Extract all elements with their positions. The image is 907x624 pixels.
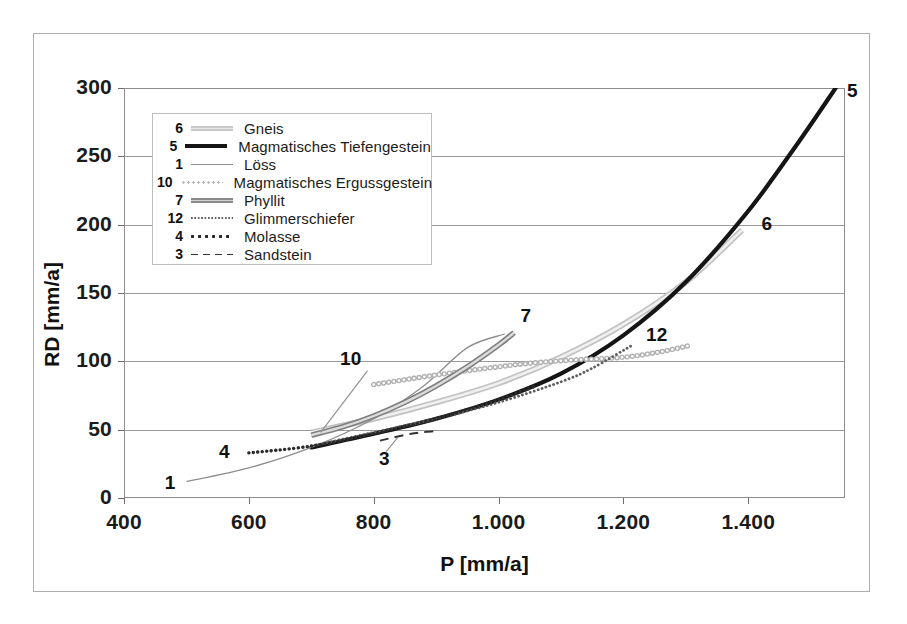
legend-line-sample-icon	[191, 248, 233, 260]
legend-label: Gneis	[244, 120, 284, 137]
y-tick-label: 50	[88, 417, 112, 441]
legend-line-sample-icon	[191, 230, 233, 242]
curve-molasse	[249, 386, 536, 453]
legend-line-sample-icon	[191, 212, 233, 224]
curve-label-gneis: 6	[762, 213, 773, 235]
legend-number: 3	[157, 246, 183, 262]
x-tick-mark	[623, 498, 624, 504]
curve-label-magmatisches_ergussgestein: 10	[340, 348, 361, 370]
curve-label-loess: 1	[165, 472, 176, 494]
legend-line-sample-icon	[185, 140, 227, 152]
legend-sample-segment	[191, 217, 233, 219]
x-tick-label: 1.400	[698, 510, 798, 534]
chart-figure: RD [mm/a] P [mm/a] 6511071243 0501001502…	[0, 0, 907, 624]
curve-label-molasse: 4	[219, 441, 230, 463]
legend-row-magmatisches-tiefengestein: 5Magmatisches Tiefengestein	[153, 137, 431, 155]
y-tick-label: 100	[76, 348, 112, 372]
y-axis-title-wrap: RD [mm/a]	[36, 215, 66, 375]
x-tick-label: 600	[199, 510, 299, 534]
legend-sample-segment	[191, 129, 233, 131]
y-tick-label: 0	[100, 485, 112, 509]
y-tick-label: 250	[76, 143, 112, 167]
legend-label: Sandstein	[244, 246, 312, 263]
legend-line-sample-icon	[191, 122, 233, 134]
legend-row-molasse: 4Molasse	[153, 227, 431, 245]
legend-label: Glimmerschiefer	[244, 210, 355, 227]
x-tick-mark	[124, 498, 125, 504]
legend-row-sandstein: 3Sandstein	[153, 245, 431, 263]
curve-magmatisches_ergussgestein-ring	[374, 345, 692, 385]
chart-legend: 6Gneis5Magmatisches Tiefengestein1Löss10…	[152, 113, 432, 265]
legend-row-magmatisches-ergussgestein: 10Magmatisches Ergussgestein	[153, 173, 431, 191]
x-tick-mark	[249, 498, 250, 504]
legend-label: Magmatisches Ergussgestein	[234, 174, 433, 191]
x-tick-mark	[374, 498, 375, 504]
legend-number: 6	[157, 120, 183, 136]
x-tick-label: 800	[324, 510, 424, 534]
legend-sample-segment	[191, 201, 233, 203]
x-tick-label: 1.000	[449, 510, 549, 534]
legend-label: Löss	[244, 156, 276, 173]
x-tick-label: 400	[74, 510, 174, 534]
legend-row-loess: 1Löss	[153, 155, 431, 173]
legend-number: 5	[157, 138, 177, 154]
legend-sample-segment	[191, 164, 233, 165]
legend-sample-segment	[191, 128, 233, 130]
legend-label: Molasse	[244, 228, 301, 245]
legend-row-gneis: 6Gneis	[153, 119, 431, 137]
curve-label-magmatisches_tiefengestein: 5	[847, 80, 858, 102]
y-tick-label: 150	[76, 280, 112, 304]
y-tick-label: 200	[76, 212, 112, 236]
legend-sample-segment	[181, 180, 223, 185]
legend-row-phyllit: 7Phyllit	[153, 191, 431, 209]
legend-number: 1	[157, 156, 183, 172]
legend-sample-segment	[185, 144, 227, 148]
legend-sample-segment	[191, 235, 233, 238]
legend-line-sample-icon	[191, 194, 233, 206]
legend-line-sample-icon	[191, 158, 233, 170]
x-tick-mark	[748, 498, 749, 504]
y-tick-label: 300	[76, 75, 112, 99]
x-tick-mark	[499, 498, 500, 504]
legend-number: 7	[157, 192, 183, 208]
legend-label: Phyllit	[244, 192, 285, 209]
legend-sample-segment	[191, 254, 233, 256]
x-axis-title: P [mm/a]	[124, 552, 845, 576]
legend-number: 12	[157, 210, 183, 226]
legend-sample-segment	[191, 200, 233, 202]
legend-label: Magmatisches Tiefengestein	[238, 138, 431, 155]
legend-number: 10	[157, 174, 173, 190]
y-axis-title: RD [mm/a]	[40, 262, 64, 367]
curve-label-sandstein: 3	[379, 448, 390, 470]
legend-number: 4	[157, 228, 183, 244]
curve-label-phyllit: 7	[521, 305, 532, 327]
x-tick-label: 1.200	[573, 510, 673, 534]
legend-line-sample-icon	[181, 176, 223, 188]
curve-label-glimmerschiefer: 12	[646, 324, 667, 346]
legend-row-glimmerschiefer: 12Glimmerschiefer	[153, 209, 431, 227]
